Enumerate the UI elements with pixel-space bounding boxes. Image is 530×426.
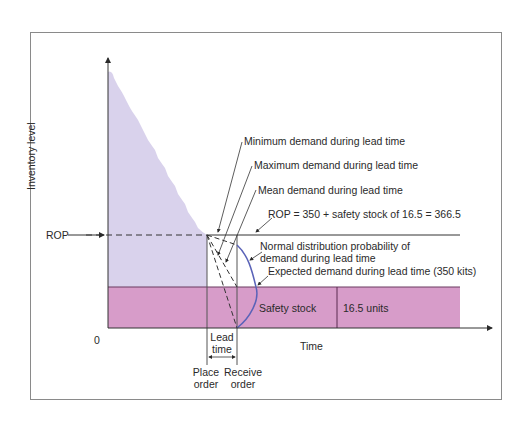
inventory-area bbox=[108, 72, 207, 287]
lead-time-label-2: time bbox=[207, 343, 237, 355]
origin-label: 0 bbox=[94, 334, 100, 346]
mean-demand-label: Mean demand during lead time bbox=[258, 184, 403, 196]
max-demand-label: Maximum demand during lead time bbox=[254, 159, 418, 171]
x-axis-label: Time bbox=[300, 340, 323, 352]
rop-formula-label: ROP = 350 + safety stock of 16.5 = 366.5 bbox=[268, 208, 461, 220]
y-axis-label: Inventory level bbox=[25, 122, 37, 190]
receive-order-label-1: Receive bbox=[218, 366, 268, 378]
lead-time-label-1: Lead bbox=[207, 331, 237, 343]
safety-stock-label: Safety stock bbox=[259, 302, 316, 314]
min-demand-label: Minimum demand during lead time bbox=[244, 135, 405, 147]
expected-demand-label: Expected demand during lead time (350 ki… bbox=[268, 265, 476, 277]
normal-dist-label-1: Normal distribution probability of bbox=[260, 240, 410, 252]
normal-dist-label-2: demand during lead time bbox=[260, 252, 376, 264]
rop-label: ROP bbox=[46, 229, 69, 241]
receive-order-label-2: order bbox=[218, 378, 268, 390]
safety-units-label: 16.5 units bbox=[343, 302, 389, 314]
mean-demand-line bbox=[207, 235, 237, 287]
